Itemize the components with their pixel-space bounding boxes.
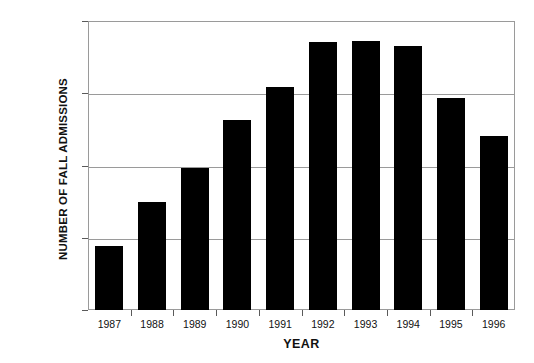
bar-slot <box>344 21 387 310</box>
bar-slot <box>387 21 430 310</box>
y-axis-title: NUMBER OF FALL ADMISSIONS <box>57 24 69 314</box>
x-tick-mark <box>344 310 345 316</box>
bar-slot <box>88 21 131 310</box>
bar <box>223 120 251 310</box>
bar <box>138 202 166 310</box>
x-tick-mark <box>302 310 303 316</box>
x-axis-title: YEAR <box>88 337 515 351</box>
x-tick-label: 1996 <box>464 318 524 330</box>
bar-series <box>88 21 515 310</box>
bar <box>181 168 209 310</box>
bar <box>394 46 422 310</box>
bar-slot <box>131 21 174 310</box>
x-tick-mark <box>472 310 473 316</box>
bar <box>95 246 123 310</box>
x-tick-mark <box>216 310 217 316</box>
bar-slot <box>173 21 216 310</box>
bar <box>309 42 337 310</box>
bar-chart: NUMBER OF FALL ADMISSIONS 100,00090,0008… <box>0 0 534 363</box>
x-tick-mark <box>131 310 132 316</box>
x-tick-mark <box>173 310 174 316</box>
bar <box>480 136 508 310</box>
x-tick-mark <box>259 310 260 316</box>
bar-slot <box>430 21 473 310</box>
bar-slot <box>259 21 302 310</box>
bar <box>352 41 380 310</box>
x-tick-mark <box>430 310 431 316</box>
y-tick-mark <box>82 310 88 311</box>
bar-slot <box>216 21 259 310</box>
bar-slot <box>302 21 345 310</box>
x-tick-mark <box>387 310 388 316</box>
bar <box>437 98 465 310</box>
bar <box>266 87 294 310</box>
bar-slot <box>472 21 515 310</box>
